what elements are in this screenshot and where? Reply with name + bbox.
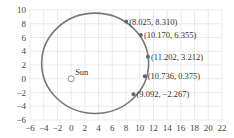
- x-tick-label: 4: [96, 123, 101, 133]
- orbit-chart: −6−4−20246810121416182022 −6−4−20246810 …: [0, 0, 234, 138]
- y-tick-label: 6: [22, 33, 27, 43]
- data-point: (8.025, 8.310): [124, 17, 177, 27]
- x-tick-label: 6: [110, 123, 115, 133]
- x-tick-label: 22: [218, 123, 227, 133]
- data-points: (8.025, 8.310)(10.170, 6.355)(11.202, 3.…: [124, 17, 203, 100]
- y-tick-label: 4: [22, 46, 27, 56]
- data-point: (10.170, 6.355): [139, 30, 197, 40]
- x-tick-label: 12: [149, 123, 158, 133]
- y-tick-label: −4: [16, 101, 26, 111]
- point-label: (10.736, 0.375): [148, 71, 201, 81]
- point-label: (9.092, −2.267): [136, 89, 189, 99]
- x-tick-label: 14: [163, 123, 173, 133]
- x-tick-label: 2: [83, 123, 88, 133]
- data-point: (9.092, −2.267): [131, 89, 189, 99]
- data-point: (10.736, 0.375): [143, 71, 201, 81]
- sun-label: Sun: [75, 67, 89, 77]
- x-tick-label: 0: [69, 123, 74, 133]
- x-tick-label: −6: [25, 123, 35, 133]
- y-axis-ticks: −6−4−20246810: [16, 5, 26, 125]
- x-tick-label: 8: [124, 123, 129, 133]
- data-point: (11.202, 3.212): [146, 52, 203, 62]
- point-label: (8.025, 8.310): [129, 17, 177, 27]
- y-tick-label: 10: [17, 5, 27, 15]
- y-tick-label: 0: [22, 74, 27, 84]
- x-tick-label: 10: [135, 123, 145, 133]
- x-axis-ticks: −6−4−20246810121416182022: [25, 123, 226, 133]
- x-tick-label: −4: [39, 123, 49, 133]
- x-tick-label: 16: [176, 123, 186, 133]
- x-tick-label: 20: [204, 123, 214, 133]
- x-tick-label: 18: [190, 123, 200, 133]
- point-label: (11.202, 3.212): [151, 52, 203, 62]
- x-tick-label: −2: [53, 123, 63, 133]
- y-tick-label: −6: [16, 115, 26, 125]
- point-label: (10.170, 6.355): [144, 30, 197, 40]
- y-tick-label: 8: [22, 19, 27, 29]
- y-tick-label: −2: [16, 88, 26, 98]
- y-tick-label: 2: [22, 60, 27, 70]
